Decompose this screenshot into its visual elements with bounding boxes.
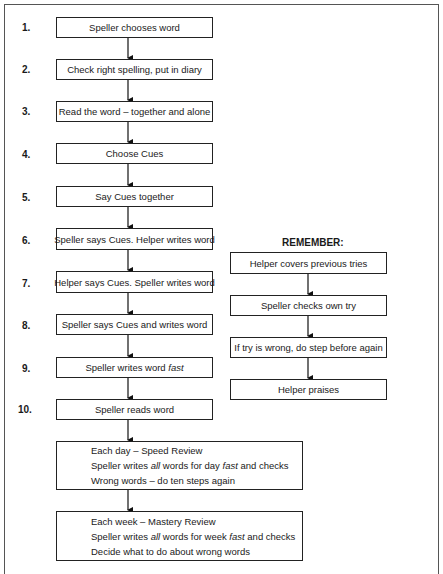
step-number: 5. [22, 192, 30, 203]
daily-review-title: Each day – Speed Review [91, 443, 302, 458]
step-number: 7. [22, 278, 30, 289]
step-text-emphasis: fast [168, 362, 183, 373]
text: and checks [238, 460, 289, 471]
step-box-9: Speller writes word fast [56, 357, 213, 378]
step-box-7: Helper says Cues. Speller writes word [56, 271, 213, 293]
step-box-3: Read the word – together and alone [56, 101, 213, 122]
step-box-1: Speller chooses word [56, 17, 213, 38]
remember-box-3: If try is wrong, do step before again [230, 337, 387, 358]
step-number: 4. [22, 149, 30, 160]
text: Speller writes [91, 531, 151, 542]
text: words for week [160, 531, 229, 542]
remember-box-1: Helper covers previous tries [230, 252, 387, 274]
step-number: 3. [22, 106, 30, 117]
step-number: 1. [22, 22, 30, 33]
step-text: Speller writes word [85, 362, 168, 373]
remember-box-4: Helper praises [230, 379, 387, 400]
emphasis-all: all [151, 460, 161, 471]
step-box-6: Speller says Cues. Helper writes word [56, 228, 213, 250]
remember-title: REMEMBER: [282, 237, 344, 248]
emphasis-fast: fast [229, 531, 244, 542]
weekly-review-box: Each week – Mastery Review Speller write… [56, 511, 303, 561]
step-number: 8. [22, 320, 30, 331]
step-number: 9. [22, 363, 30, 374]
step-number: 2. [22, 64, 30, 75]
text: Speller writes [91, 460, 151, 471]
remember-box-2: Speller checks own try [230, 295, 387, 316]
emphasis-all: all [151, 531, 161, 542]
step-box-8: Speller says Cues and writes word [56, 314, 213, 335]
weekly-review-title: Each week – Mastery Review [91, 514, 302, 529]
emphasis-fast: fast [223, 460, 238, 471]
step-box-2: Check right spelling, put in diary [56, 59, 213, 80]
step-box-5: Say Cues together [56, 186, 213, 207]
text: words for day [160, 460, 222, 471]
daily-review-instruction: Speller writes all words for day fast an… [91, 458, 302, 473]
weekly-review-instruction: Speller writes all words for week fast a… [91, 529, 302, 544]
daily-review-box: Each day – Speed Review Speller writes a… [56, 441, 303, 490]
step-box-4: Choose Cues [56, 143, 213, 164]
step-number: 6. [22, 235, 30, 246]
text: and checks [245, 531, 296, 542]
step-box-10: Speller reads word [56, 399, 213, 420]
daily-review-wrong-words: Wrong words – do ten steps again [91, 473, 302, 488]
weekly-review-wrong-words: Decide what to do about wrong words [91, 544, 302, 559]
step-number: 10. [18, 404, 32, 415]
